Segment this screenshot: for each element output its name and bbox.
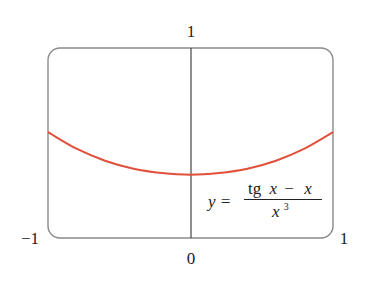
denominator-exp: 3 [284,201,289,212]
formula-numerator: tg x − x [248,179,312,198]
x-tick-right: 1 [340,229,349,248]
formula-annotation: y = tg x − x x 3 [206,179,322,221]
x-tick-origin: 0 [187,249,196,268]
chart: 1 −1 1 0 y = tg x − x x 3 [0,0,371,286]
formula-denominator: x 3 [271,201,289,221]
numerator-func: tg [248,179,262,198]
denominator-var: x [271,202,280,221]
y-tick-top: 1 [187,22,196,41]
x-tick-left: −1 [21,229,39,248]
formula-lhs: y = [206,192,231,211]
numerator-var1: x [268,179,277,198]
numerator-var2: x [303,179,312,198]
formula-lhs-text: y = [206,192,231,211]
numerator-minus: − [284,179,294,198]
